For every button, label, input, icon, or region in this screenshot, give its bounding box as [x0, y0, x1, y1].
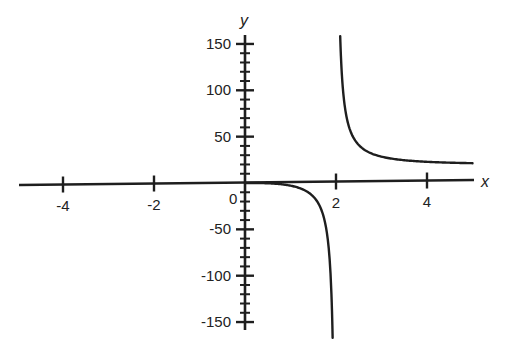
y-axis-label: y — [239, 12, 249, 29]
x-tick-label: 4 — [423, 193, 431, 210]
curve-left-branch — [245, 183, 333, 338]
y-tick-label: -100 — [201, 267, 231, 284]
y-tick-label: 50 — [214, 128, 231, 145]
x-tick-label: -4 — [56, 197, 69, 214]
y-tick-label: -150 — [201, 313, 231, 330]
x-axis-label: x — [480, 173, 490, 190]
y-tick-label: -50 — [209, 220, 231, 237]
y-tick-label: 150 — [206, 35, 231, 52]
axes: -4-224 15010050-50-100-150 x y 0 — [19, 12, 490, 330]
function-graph: -4-224 15010050-50-100-150 x y 0 — [0, 0, 507, 360]
function-curves — [245, 36, 473, 338]
origin-label: 0 — [229, 190, 237, 207]
x-tick-label: -2 — [147, 196, 160, 213]
x-tick-label: 2 — [332, 194, 340, 211]
y-tick-label: 100 — [206, 81, 231, 98]
curve-right-branch — [340, 36, 472, 163]
